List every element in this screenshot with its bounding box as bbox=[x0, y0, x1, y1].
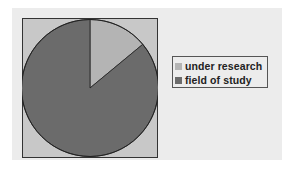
legend-item-field-of-study: field of study bbox=[175, 73, 265, 87]
legend-label: field of study bbox=[185, 74, 252, 86]
legend: under research field of study bbox=[172, 56, 268, 88]
legend-item-under-research: under research bbox=[175, 59, 265, 73]
pie-chart bbox=[22, 18, 158, 158]
legend-label: under research bbox=[185, 60, 262, 72]
legend-swatch bbox=[175, 63, 182, 70]
legend-swatch bbox=[175, 77, 182, 84]
